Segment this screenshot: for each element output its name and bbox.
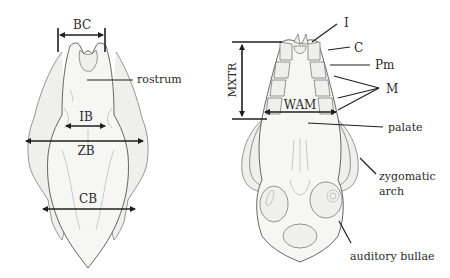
ventral-skull-view [242, 34, 359, 262]
label-c: C [354, 41, 363, 55]
label-wam: WAM [284, 98, 317, 112]
label-zb: ZB [77, 144, 94, 158]
label-palate: palate [388, 121, 423, 134]
label-zygomatic: zygomatic [379, 170, 436, 183]
label-incisor-group: I [312, 16, 349, 42]
label-auditory-bullae: auditory bullae [350, 250, 434, 263]
label-premolar-group: Pm [330, 58, 395, 72]
label-arch: arch [379, 185, 404, 198]
label-cb: CB [79, 192, 97, 206]
label-i: I [344, 16, 349, 30]
label-pm: Pm [375, 58, 395, 72]
label-zygomatic-arch-group: zygomatic arch [360, 158, 436, 198]
foramen-magnum [283, 224, 317, 248]
label-molar-group: M [334, 76, 398, 110]
label-rostrum: rostrum [137, 73, 182, 86]
label-mxtr: MXTR [226, 62, 239, 97]
label-auditory-bullae-group: auditory bullae [339, 221, 434, 263]
label-bc: BC [73, 18, 91, 32]
label-m: M [386, 82, 398, 96]
label-ib: IB [79, 110, 93, 124]
skull-diagram: BC rostrum IB ZB CB [0, 0, 450, 278]
label-canine-group: C [328, 41, 363, 55]
